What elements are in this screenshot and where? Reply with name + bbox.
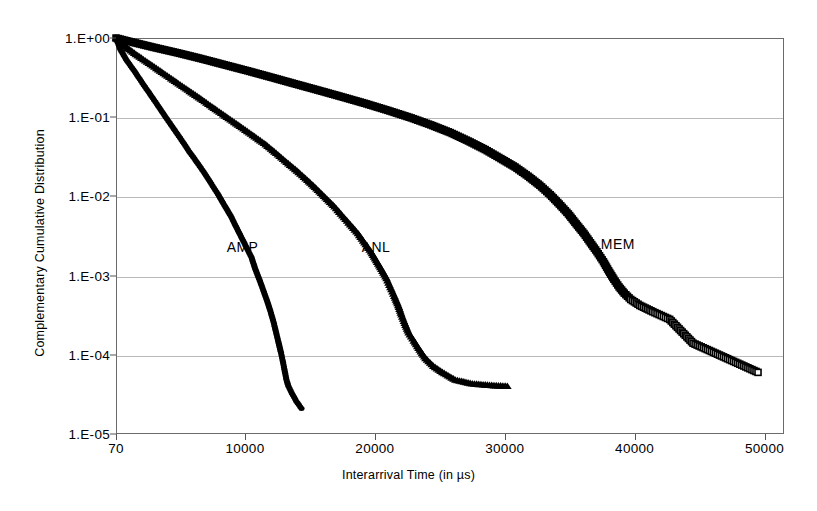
x-axis-tick-label: 20000: [355, 441, 394, 456]
y-axis-tick-mark: [110, 117, 116, 118]
y-axis-tick-label: 1.E-05: [68, 427, 110, 442]
y-axis-tick-labels: 1.E+001.E-011.E-021.E-031.E-041.E-05: [0, 0, 110, 511]
gridline: [117, 356, 783, 357]
x-axis-tick-mark: [505, 434, 506, 440]
gridline: [117, 118, 783, 119]
y-axis-tick-label: 1.E-02: [68, 189, 110, 204]
gridline: [117, 197, 783, 198]
x-axis-tick-mark: [635, 434, 636, 440]
y-axis-tick-label: 1.E-04: [68, 347, 110, 362]
y-axis-tick-label: 1.E-03: [68, 268, 110, 283]
y-axis-tick-mark: [110, 354, 116, 355]
y-axis-tick-label: 1.E+00: [65, 31, 110, 46]
x-axis-tick-mark: [245, 434, 246, 440]
x-axis-tick-mark: [765, 434, 766, 440]
gridline: [117, 277, 783, 278]
x-axis-tick-label: 50000: [745, 441, 784, 456]
plot-area: [116, 38, 784, 434]
x-axis-title: Interarrival Time (in µs): [0, 468, 817, 482]
x-axis-tick-label: 40000: [615, 441, 654, 456]
y-axis-tick-mark: [110, 38, 116, 39]
x-axis-title-text: Interarrival Time (in µs): [342, 468, 475, 482]
x-axis-tick-label: 30000: [485, 441, 524, 456]
series-label-anl: ANL: [362, 239, 390, 255]
x-axis-tick-label: 70: [108, 441, 124, 456]
y-axis-tick-mark: [110, 434, 116, 435]
y-axis-tick-mark: [110, 275, 116, 276]
series-label-mem: MEM: [601, 236, 635, 252]
y-axis-tick-label: 1.E-01: [68, 110, 110, 125]
series-label-amp: AMP: [227, 239, 259, 255]
x-axis-tick-mark: [375, 434, 376, 440]
y-axis-title: Complementary Cumulative Distribution: [33, 43, 47, 443]
y-axis-tick-mark: [110, 196, 116, 197]
x-axis-tick-label: 10000: [225, 441, 264, 456]
chart-container: 1.E+001.E-011.E-021.E-031.E-041.E-05 Com…: [0, 0, 817, 511]
x-axis-tick-mark: [116, 434, 117, 440]
